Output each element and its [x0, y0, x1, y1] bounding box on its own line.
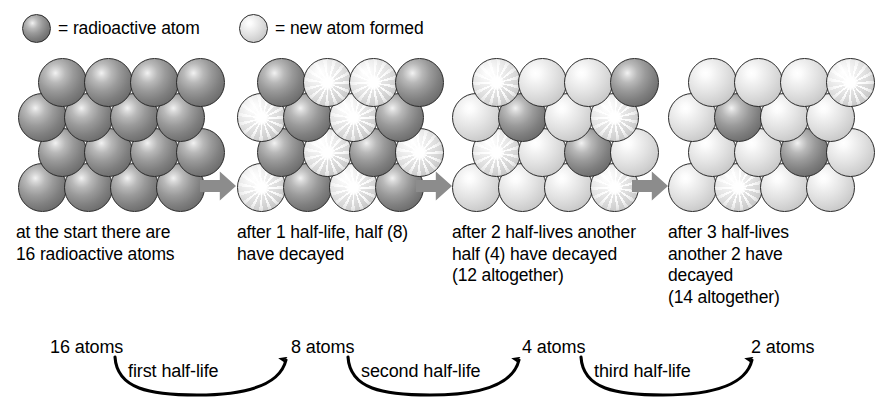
- decay-burst-icon: [350, 59, 397, 106]
- atom-row: [257, 58, 441, 107]
- legend-item-new-atom: = new atom formed: [239, 14, 424, 43]
- summary-count-2: 2 atoms: [751, 337, 814, 358]
- radioactive-atom-icon: [176, 58, 225, 107]
- caption-stage-start: at the start there are 16 radioactive at…: [16, 222, 228, 265]
- caption-stage-2: after 2 half-lives another half (4) have…: [452, 222, 664, 287]
- arc-label-second-half-life: second half-life: [361, 361, 480, 382]
- decay-burst-icon: [304, 59, 351, 106]
- atom-row: [688, 58, 872, 107]
- atom-cluster-after-1-half-life: [237, 58, 433, 216]
- caption-stage-3: after 3 half-lives another 2 have decaye…: [668, 222, 878, 308]
- atom-row: [472, 58, 656, 107]
- new-atom-icon: [518, 58, 567, 107]
- caption-stage-1: after 1 half-life, half (8) have decayed: [237, 222, 447, 265]
- arc-label-third-half-life: third half-life: [594, 361, 691, 382]
- new-atom-icon: [303, 58, 352, 107]
- decay-burst-icon: [473, 59, 520, 106]
- dark-atom-swatch-icon: [22, 14, 51, 43]
- radioactive-atom-icon: [257, 58, 306, 107]
- atom-cluster-after-3-half-lives: [668, 58, 864, 216]
- radioactive-atom-icon: [395, 58, 444, 107]
- new-atom-icon: [780, 58, 829, 107]
- legend-item-radioactive: = radioactive atom: [22, 14, 200, 43]
- decay-burst-icon: [827, 59, 874, 106]
- legend-label-radioactive: = radioactive atom: [58, 18, 200, 39]
- half-life-summary: 16 atoms 8 atoms 4 atoms 2 atoms first h…: [0, 333, 888, 417]
- atom-cluster-sequence: [0, 58, 888, 216]
- radioactive-atom-icon: [610, 58, 659, 107]
- light-atom-swatch-icon: [239, 14, 268, 43]
- new-atom-icon: [564, 58, 613, 107]
- new-atom-icon: [472, 58, 521, 107]
- summary-count-4: 4 atoms: [522, 337, 585, 358]
- new-atom-icon: [826, 58, 875, 107]
- decay-diagram: = radioactive atom = new atom formed at …: [0, 0, 888, 417]
- legend: = radioactive atom = new atom formed: [0, 0, 888, 58]
- radioactive-atom-icon: [38, 58, 87, 107]
- arc-label-first-half-life: first half-life: [128, 361, 219, 382]
- atom-row: [38, 58, 222, 107]
- atom-cluster-after-2-half-lives: [452, 58, 648, 216]
- new-atom-icon: [349, 58, 398, 107]
- new-atom-icon: [734, 58, 783, 107]
- stage-captions: at the start there are 16 radioactive at…: [0, 222, 888, 332]
- legend-label-new-atom: = new atom formed: [275, 18, 424, 39]
- summary-count-16: 16 atoms: [50, 337, 123, 358]
- atom-cluster-start: [18, 58, 214, 216]
- radioactive-atom-icon: [130, 58, 179, 107]
- new-atom-icon: [688, 58, 737, 107]
- radioactive-atom-icon: [84, 58, 133, 107]
- summary-count-8: 8 atoms: [291, 337, 354, 358]
